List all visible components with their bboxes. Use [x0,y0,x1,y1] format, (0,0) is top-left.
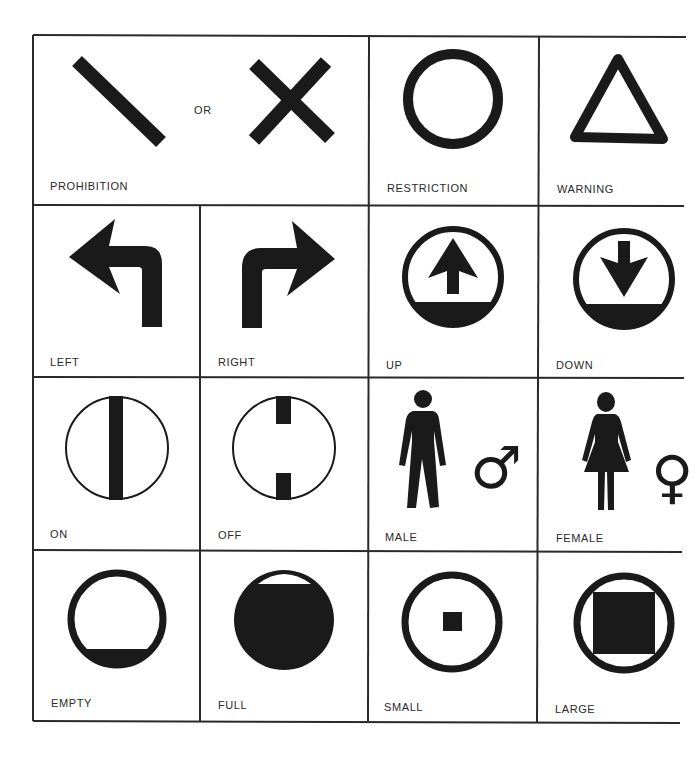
cell-label-small: SMALL [384,701,423,713]
cell-label-off: OFF [218,529,242,541]
cell-large: LARGE [539,553,699,723]
cell-right: RIGHT [201,206,368,376]
cell-label-warning: WARNING [557,183,614,195]
cell-label-female: FEMALE [556,532,604,544]
cell-label-down: DOWN [556,359,593,371]
down-arrow-in-circle-icon [539,207,699,377]
cell-on: ON [34,378,199,550]
off-switch-icon [201,378,368,550]
left-turn-arrow-icon [34,206,199,376]
female-symbol-icon: ♀ [651,448,693,506]
cell-restriction: RESTRICTION [370,36,538,204]
empty-container-icon [34,551,199,721]
cell-down: DOWN [539,207,699,377]
cell-warning: WARNING [540,37,699,205]
restriction-circle-icon [370,36,538,204]
cell-up: UP [370,207,537,377]
small-size-icon [370,552,537,722]
cell-male: ♂ MALE [370,379,537,551]
full-container-icon [201,551,368,721]
cell-label-left: LEFT [50,356,79,368]
cell-label-prohibition: PROHIBITION [50,180,128,192]
up-arrow-in-circle-icon [370,207,537,377]
cell-full: FULL [201,551,368,721]
prohibition-cross-icon [34,36,368,204]
cell-empty: EMPTY [34,551,199,721]
cell-left: LEFT [34,206,199,376]
symbol-grid: OR PROHIBITION RESTRICTION WARNING LEFT … [0,0,699,757]
cell-off: OFF [201,378,368,550]
cell-label-restriction: RESTRICTION [387,182,468,194]
cell-prohibition: OR PROHIBITION [34,36,368,204]
cell-label-male: MALE [385,531,417,543]
male-symbol-icon: ♂ [470,439,522,497]
cell-small: SMALL [370,552,537,722]
cell-female: ♀ FEMALE [539,380,699,552]
cell-label-right: RIGHT [218,356,255,368]
on-switch-icon [34,378,199,550]
cell-label-empty: EMPTY [51,697,92,709]
large-size-icon [539,553,699,723]
cell-label-large: LARGE [555,703,595,715]
cell-label-on: ON [50,528,68,540]
right-turn-arrow-icon [201,206,368,376]
warning-triangle-icon [540,37,699,205]
cell-label-full: FULL [218,699,247,711]
cell-label-up: UP [386,359,402,371]
